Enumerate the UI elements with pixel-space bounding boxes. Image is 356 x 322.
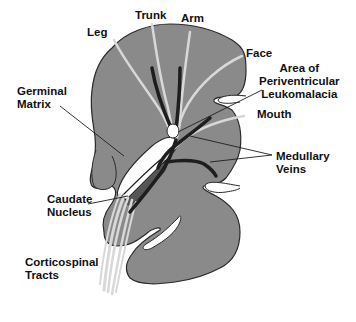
label-germinal-matrix: Germinal Matrix [17, 85, 67, 111]
label-corticospinal-tracts: Corticospinal Tracts [25, 256, 98, 282]
label-leg: Leg [87, 26, 107, 39]
lower-sulcus [205, 182, 240, 192]
label-medullary-veins: Medullary Veins [276, 150, 330, 176]
label-caudate-nucleus: Caudate Nucleus [47, 193, 92, 219]
label-arm: Arm [181, 12, 204, 25]
pvl-lesion [167, 124, 179, 138]
left-lobe [92, 150, 116, 190]
label-trunk: Trunk [135, 9, 166, 22]
label-area-of-pvl: Area of Periventricular Leukomalacia [259, 62, 340, 101]
label-mouth: Mouth [257, 108, 291, 121]
brain-diagram: Leg Trunk Arm Face Area of Periventricul… [0, 0, 356, 322]
label-face: Face [246, 47, 272, 60]
